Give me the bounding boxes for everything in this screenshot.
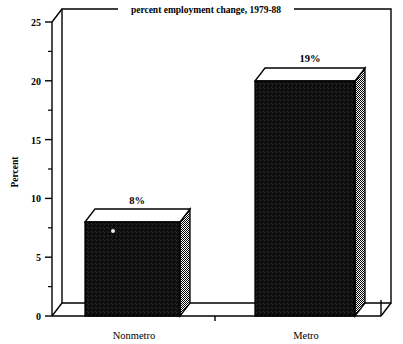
bar-nonmetro-top — [85, 209, 190, 222]
depth-edge-bottom-left — [52, 303, 62, 316]
bar-nonmetro-speck — [111, 229, 115, 233]
y-tick-label-20: 20 — [31, 76, 41, 87]
y-tick-label-5: 5 — [36, 252, 41, 263]
category-label-nonmetro: Nonmetro — [113, 330, 156, 341]
y-axis-title: Percent — [10, 156, 20, 188]
depth-edge-bottom-right — [381, 303, 391, 316]
bar-metro[interactable] — [255, 68, 365, 316]
y-axis-ticks — [45, 22, 52, 316]
chart-title: percent employment change, 1979-88 — [131, 5, 281, 15]
bar-chart: 25 20 15 10 5 0 Percent percent employme… — [0, 0, 403, 344]
y-tick-label-10: 10 — [31, 193, 41, 204]
chart-canvas: 25 20 15 10 5 0 Percent percent employme… — [0, 0, 403, 344]
bar-metro-front — [255, 81, 355, 316]
value-label-nonmetro: 8% — [129, 195, 145, 206]
depth-edge-top-left — [52, 9, 62, 22]
y-tick-label-0: 0 — [36, 311, 41, 322]
y-tick-label-25: 25 — [31, 17, 41, 28]
category-label-metro: Metro — [293, 330, 319, 341]
bar-metro-side — [355, 68, 365, 316]
bar-nonmetro-front — [85, 222, 180, 316]
bar-metro-top — [255, 68, 365, 81]
y-tick-label-15: 15 — [31, 135, 41, 146]
value-label-metro: 19% — [300, 53, 321, 64]
bar-nonmetro[interactable] — [85, 209, 190, 316]
bar-nonmetro-side — [180, 209, 190, 316]
